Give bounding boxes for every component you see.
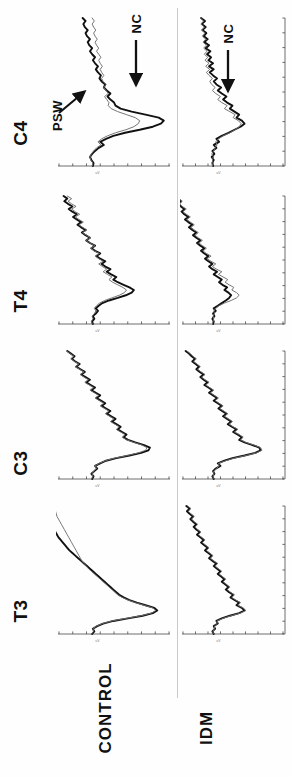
panel-c3-control: uV (56, 345, 174, 493)
panel-c3-idm: uV (180, 345, 288, 493)
svg-text:uV: uV (216, 171, 221, 175)
svg-text:uV: uV (216, 639, 221, 643)
panel-t4-control: uV (56, 190, 174, 338)
row-label-c4: C4 (10, 116, 32, 150)
svg-text:uV: uV (216, 329, 221, 333)
column-divider (177, 8, 178, 698)
svg-text:uV: uV (95, 329, 100, 333)
row-label-t3: T3 (10, 594, 32, 628)
panel-c4-idm: uV (180, 12, 288, 180)
svg-text:uV: uV (95, 484, 100, 488)
svg-text:uV: uV (95, 171, 100, 175)
panel-t3-control: uV (56, 500, 174, 648)
row-label-c3: C3 (10, 446, 32, 480)
row-label-t4: T4 (10, 284, 32, 318)
panel-c4-control: uV (56, 12, 174, 180)
panel-t4-idm: uV (180, 190, 288, 338)
panel-t3-idm: uV (180, 500, 288, 648)
group-label-idm: IDM (197, 699, 217, 757)
figure-root: C4 T4 C3 T3 CONTROL IDM PSW NC NC uV uV … (0, 0, 292, 778)
svg-text:uV: uV (216, 484, 221, 488)
svg-text:uV: uV (95, 639, 100, 643)
group-label-control: CONTROL (96, 658, 116, 758)
